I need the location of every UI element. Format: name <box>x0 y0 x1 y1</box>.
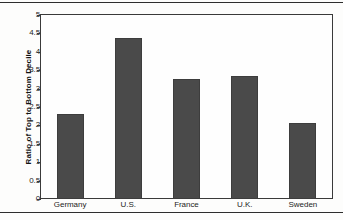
chart-figure: Ratio of Top to Bottom Decile 00.511.522… <box>0 0 343 220</box>
y-axis-tick-label: 5 <box>0 11 40 19</box>
y-axis-tick-mark <box>37 199 41 200</box>
y-axis-tick-label: 3 <box>0 85 40 93</box>
bottom-divider-rule <box>0 212 343 213</box>
x-axis-label-france: France <box>157 201 215 209</box>
x-axis-label-sweden: Sweden <box>274 201 332 209</box>
y-axis-tick-label: 2.5 <box>0 103 40 111</box>
bar-u-k[interactable] <box>231 76 258 199</box>
y-axis-tick-label: 0 <box>0 195 40 203</box>
bar-france[interactable] <box>173 79 200 199</box>
x-axis-label-germany: Germany <box>41 201 99 209</box>
x-axis-label-u-s: U.S. <box>99 201 157 209</box>
y-axis-tick-label: 2 <box>0 121 40 129</box>
top-divider-rule <box>0 2 343 3</box>
y-axis-tick-label: 1 <box>0 158 40 166</box>
bar-germany[interactable] <box>57 114 84 199</box>
y-axis-tick-label: 0.5 <box>0 177 40 185</box>
plot-area <box>41 15 332 199</box>
y-axis-tick-label: 3.5 <box>0 66 40 74</box>
x-axis-label-u-k: U.K. <box>216 201 274 209</box>
y-axis-tick-label: 4 <box>0 48 40 56</box>
bar-u-s[interactable] <box>115 38 142 199</box>
y-axis-tick-label: 1.5 <box>0 140 40 148</box>
y-axis-tick-label: 4.5 <box>0 29 40 37</box>
bar-sweden[interactable] <box>289 123 316 199</box>
